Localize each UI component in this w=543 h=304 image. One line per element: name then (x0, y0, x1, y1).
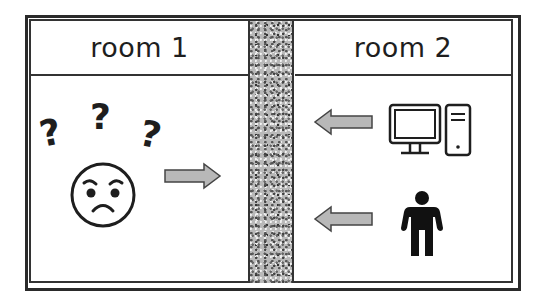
person-icon (400, 190, 444, 258)
arrow-left-icon (313, 205, 373, 233)
frowning-face-icon (68, 160, 138, 230)
computer-icon (388, 103, 474, 158)
question-mark-icon: ? (90, 96, 111, 137)
arrow-left-icon (313, 108, 373, 136)
arrow-right-icon (164, 162, 222, 190)
room-1-title: room 1 (31, 21, 248, 76)
room-2-title: room 2 (295, 21, 511, 76)
wall (248, 21, 294, 283)
